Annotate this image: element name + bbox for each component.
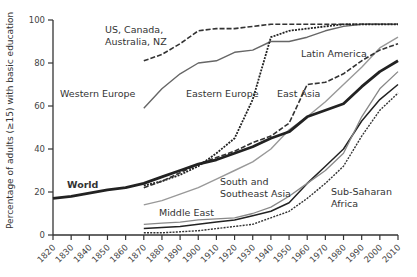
x-tick-label: 1970 xyxy=(307,242,329,264)
education-line-chart: 0204060801001820183018401850186018701880… xyxy=(0,0,417,277)
series-annotation: Sub-Saharan xyxy=(331,186,392,197)
y-tick-label: 60 xyxy=(34,101,45,111)
y-tick-label: 40 xyxy=(34,144,45,154)
series-line-east-asia xyxy=(144,44,398,188)
x-tick-label: 1860 xyxy=(108,242,130,264)
x-tick-label: 1890 xyxy=(162,242,184,264)
x-tick-label: 1950 xyxy=(271,242,293,264)
x-tick-label: 1870 xyxy=(126,242,148,264)
x-tick-label: 1930 xyxy=(235,242,257,264)
series-annotation: US, Canada, xyxy=(105,24,163,35)
series-annotation: Latin America xyxy=(301,48,367,59)
series-annotation: Middle East xyxy=(159,207,214,218)
series-annotation: Australia, NZ xyxy=(105,36,167,47)
x-tick-label: 1880 xyxy=(144,242,166,264)
world-label: World xyxy=(67,179,98,190)
x-tick-label: 1850 xyxy=(90,242,112,264)
x-tick-label: 1910 xyxy=(198,242,220,264)
series-annotation: Africa xyxy=(331,198,358,209)
x-tick-label: 1920 xyxy=(217,242,239,264)
series-annotation: East Asia xyxy=(277,88,320,99)
series-annotation: Western Europe xyxy=(60,88,136,99)
y-tick-label: 80 xyxy=(34,58,45,68)
x-tick-label: 2010 xyxy=(380,242,402,264)
x-tick-label: 1940 xyxy=(253,242,275,264)
x-tick-label: 1840 xyxy=(71,242,93,264)
x-tick-label: 1990 xyxy=(344,242,366,264)
x-tick-label: 1900 xyxy=(180,242,202,264)
series-annotation: Eastern Europe xyxy=(186,88,259,99)
series-line-middle-east xyxy=(144,72,398,225)
x-tick-label: 1980 xyxy=(326,242,348,264)
y-axis-label: Percentage of adults (≥15) with basic ed… xyxy=(5,12,15,229)
series-annotation: Southeast Asia xyxy=(220,188,291,199)
y-tick-label: 20 xyxy=(34,187,45,197)
x-tick-label: 2000 xyxy=(362,242,384,264)
y-tick-label: 100 xyxy=(29,15,45,25)
x-tick-label: 1960 xyxy=(289,242,311,264)
x-tick-label: 1830 xyxy=(53,242,75,264)
x-tick-label: 1820 xyxy=(35,242,57,264)
y-tick-label: 0 xyxy=(40,230,45,240)
series-annotation: South and xyxy=(220,176,269,187)
